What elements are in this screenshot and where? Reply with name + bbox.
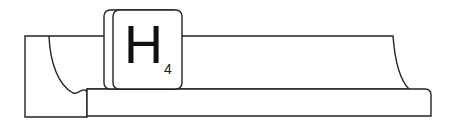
rack-drawing	[0, 0, 453, 129]
rack-front-ledge	[87, 89, 431, 116]
tile-score: 4	[164, 62, 172, 76]
tile-rack-diagram: H 4	[0, 0, 453, 129]
tile-letter: H	[124, 17, 163, 71]
